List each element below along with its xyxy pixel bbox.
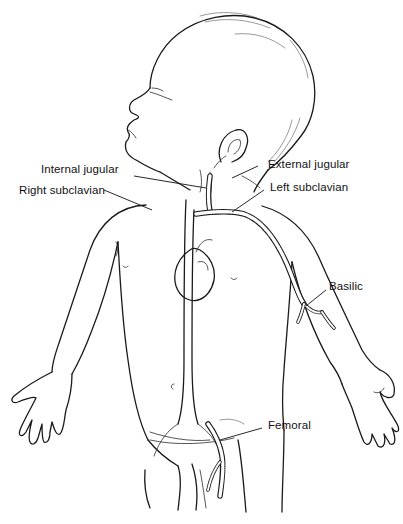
label-basilic: Basilic: [329, 280, 363, 292]
label-left-subclavian: Left subclavian: [270, 181, 348, 193]
central-vessel: [154, 200, 216, 456]
leader-femoral: [220, 428, 262, 440]
venous-anatomy-figure: Internal jugular Right subclavian Extern…: [0, 0, 403, 524]
leader-right-subclavian: [104, 190, 152, 210]
infant-line-drawing: [0, 0, 403, 524]
label-right-subclavian: Right subclavian: [19, 184, 105, 196]
label-leaders: [104, 166, 326, 440]
leader-basilic: [306, 290, 326, 306]
leader-external-jugular: [232, 166, 258, 178]
head-outline: [125, 13, 314, 172]
label-external-jugular: External jugular: [268, 158, 350, 170]
label-femoral: Femoral: [268, 419, 311, 431]
heart-drawing: [175, 240, 215, 301]
highlighted-veins: [196, 176, 334, 496]
label-internal-jugular: Internal jugular: [41, 163, 119, 175]
body-outline: [12, 205, 399, 512]
leader-left-subclavian: [232, 190, 264, 212]
